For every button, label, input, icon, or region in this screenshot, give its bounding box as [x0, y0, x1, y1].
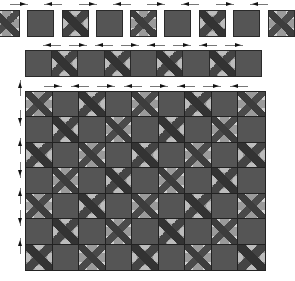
arrow-right-icon	[150, 84, 168, 89]
plain-cell	[79, 168, 106, 193]
arrow-right-icon	[216, 2, 234, 7]
patterned-cell	[185, 143, 212, 168]
patterned-cell	[185, 194, 212, 219]
arrow-down-icon	[18, 210, 23, 226]
plain-cell	[159, 92, 186, 117]
arrow-right-icon	[173, 43, 191, 48]
plain-cell	[185, 117, 212, 142]
plain-tile	[96, 10, 123, 37]
arrow-up-icon	[18, 188, 23, 204]
patterned-tile	[130, 10, 157, 37]
plain-cell	[53, 245, 80, 270]
arrow-up-icon	[18, 238, 23, 254]
plain-cell	[26, 51, 52, 76]
plain-cell	[159, 194, 186, 219]
patterned-cell	[79, 194, 106, 219]
plain-cell	[185, 219, 212, 244]
plain-tile	[164, 10, 191, 37]
patterned-cell	[106, 219, 133, 244]
arrow-right-icon	[44, 84, 62, 89]
arrow-left-icon	[230, 84, 248, 89]
patterned-cell	[26, 143, 53, 168]
plain-cell	[212, 143, 239, 168]
arrow-left-icon	[147, 43, 165, 48]
patterned-cell	[238, 143, 265, 168]
plain-cell	[159, 245, 186, 270]
patterned-tile	[0, 10, 20, 37]
plain-cell	[79, 117, 106, 142]
arrow-left-icon	[43, 43, 61, 48]
plain-cell	[132, 168, 159, 193]
patterned-cell	[53, 219, 80, 244]
plain-cell	[238, 219, 265, 244]
patterned-cell	[210, 51, 236, 76]
arrow-left-icon	[181, 2, 199, 7]
plain-cell	[132, 219, 159, 244]
plain-cell	[212, 92, 239, 117]
arrow-right-icon	[97, 84, 115, 89]
patterned-cell	[26, 92, 53, 117]
plain-tile	[27, 10, 54, 37]
arrow-up-icon	[18, 138, 23, 154]
patterned-cell	[132, 245, 159, 270]
patterned-cell	[52, 51, 78, 76]
plain-cell	[106, 245, 133, 270]
plain-tile	[233, 10, 260, 37]
patterned-cell	[53, 168, 80, 193]
arrow-left-icon	[44, 2, 62, 7]
plain-cell	[132, 117, 159, 142]
arrow-left-icon	[199, 43, 217, 48]
arrow-left-icon	[95, 43, 113, 48]
patterned-cell	[132, 92, 159, 117]
plain-cell	[212, 194, 239, 219]
plain-cell	[238, 117, 265, 142]
plain-cell	[78, 51, 104, 76]
arrow-right-icon	[79, 2, 97, 7]
plain-cell	[26, 219, 53, 244]
patterned-cell	[212, 117, 239, 142]
arrow-down-icon	[18, 162, 23, 178]
joined-tile-strip	[25, 50, 262, 77]
checkerboard-grid	[25, 91, 266, 271]
arrow-right-icon	[69, 43, 87, 48]
arrow-left-icon	[177, 84, 195, 89]
patterned-cell	[132, 194, 159, 219]
plain-cell	[183, 51, 209, 76]
plain-cell	[106, 143, 133, 168]
patterned-cell	[185, 245, 212, 270]
arrow-left-icon	[71, 84, 89, 89]
patterned-cell	[106, 168, 133, 193]
patterned-cell	[159, 219, 186, 244]
plain-cell	[79, 219, 106, 244]
patterned-cell	[157, 51, 183, 76]
plain-cell	[106, 194, 133, 219]
patterned-cell	[238, 92, 265, 117]
plain-cell	[159, 143, 186, 168]
arrow-left-icon	[124, 84, 142, 89]
plain-cell	[26, 117, 53, 142]
arrow-right-icon	[203, 84, 221, 89]
patterned-cell	[159, 117, 186, 142]
patterned-tile	[199, 10, 226, 37]
plain-cell	[106, 92, 133, 117]
patterned-cell	[238, 194, 265, 219]
patterned-cell	[26, 194, 53, 219]
patterned-cell	[132, 143, 159, 168]
arrow-down-icon	[18, 110, 23, 126]
plain-cell	[53, 92, 80, 117]
arrow-right-icon	[225, 43, 243, 48]
patterned-tile	[268, 10, 295, 37]
arrow-left-icon	[113, 2, 131, 7]
arrow-right-icon	[147, 2, 165, 7]
patterned-cell	[26, 245, 53, 270]
plain-cell	[53, 143, 80, 168]
arrow-right-icon	[121, 43, 139, 48]
patterned-cell	[53, 117, 80, 142]
patterned-cell	[79, 245, 106, 270]
plain-cell	[185, 168, 212, 193]
patterned-cell	[238, 245, 265, 270]
plain-cell	[212, 245, 239, 270]
patterned-cell	[79, 92, 106, 117]
arrow-right-icon	[10, 2, 28, 7]
patterned-cell	[79, 143, 106, 168]
